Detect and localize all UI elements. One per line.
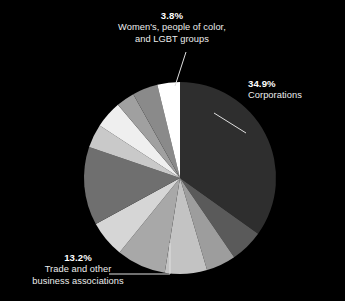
callout-corporations-line1: Corporations [248,90,340,102]
callout-trade-associations: 13.2% Trade and other business associati… [2,252,154,287]
callout-women-poc-lgbt-line1: Women's, people of color, [72,22,272,34]
callout-trade-associations-line1: Trade and other [2,264,154,276]
callout-women-poc-lgbt-line2: and LGBT groups [72,34,272,46]
callout-trade-associations-percent: 13.2% [2,252,154,264]
callout-women-poc-lgbt: 3.8% Women's, people of color, and LGBT … [72,10,272,45]
callout-corporations-percent: 34.9% [248,78,340,90]
callout-women-poc-lgbt-percent: 3.8% [72,10,272,22]
callout-corporations: 34.9% Corporations [248,78,340,102]
pie-chart: 3.8% Women's, people of color, and LGBT … [0,0,345,301]
callout-trade-associations-line2: business associations [2,276,154,288]
leader-line-women-poc-lgbt [175,52,186,86]
pie-slice-group [84,82,276,274]
